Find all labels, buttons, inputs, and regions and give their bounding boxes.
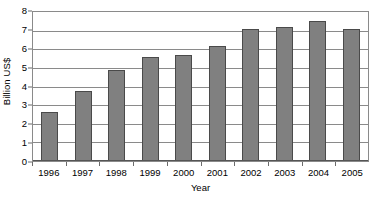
y-axis-tick-labels: 012345678 [14,11,27,162]
y-axis-tick-label: 2 [14,120,27,130]
x-axis-tick-label: 2003 [268,167,302,181]
bar-slot [335,12,369,161]
y-axis-tick-label: 6 [14,44,27,54]
bar-slot [67,12,101,161]
bar-2003[interactable] [276,27,293,161]
x-axis-tick-slot [201,162,235,166]
y-axis-tick-label: 8 [14,6,27,16]
y-axis-tick-label: 3 [14,101,27,111]
y-axis-tick-label: 0 [14,157,27,167]
bar-slot [301,12,335,161]
x-axis-tick-slot [133,162,167,166]
x-axis-title: Year [32,182,369,194]
bar-slot [100,12,134,161]
x-axis-tick-mark [66,162,67,166]
x-axis-tick-labels: 1996199719981999200020012002200320042005 [32,167,369,181]
bar-2004[interactable] [309,21,326,161]
bar-chart: Billion US$ 012345678 199619971998199920… [0,0,373,198]
x-axis-tick-label: 1997 [66,167,100,181]
bar-2001[interactable] [209,46,226,161]
bar-slot [268,12,302,161]
x-axis-tick-mark [133,162,134,166]
bar-slot [234,12,268,161]
x-axis-tick-slot [66,162,100,166]
bar-slot [167,12,201,161]
x-axis-tick-slot [99,162,133,166]
x-axis-tick-mark [302,162,303,166]
x-axis-tick-label: 2002 [234,167,268,181]
x-axis-tick-label: 1998 [99,167,133,181]
y-axis-title-text: Billion US$ [2,57,13,105]
x-axis-tick-marks [32,162,369,166]
bar-1997[interactable] [75,91,92,161]
x-axis-tick-slot [167,162,201,166]
bar-slot [33,12,67,161]
bar-1998[interactable] [108,70,125,161]
bar-2000[interactable] [175,55,192,161]
x-axis-tick-mark [201,162,202,166]
x-axis-tick-slot [32,162,66,166]
y-axis-tick-label: 5 [14,63,27,73]
y-axis-tick-label: 4 [14,82,27,92]
bar-2002[interactable] [242,29,259,161]
x-axis-tick-mark [32,162,33,166]
x-axis-tick-label: 1999 [133,167,167,181]
bar-series [33,12,368,161]
y-axis-title: Billion US$ [0,0,14,162]
x-axis-tick-mark [335,162,336,166]
x-axis-tick-label: 2001 [201,167,235,181]
x-axis-baseline [33,160,368,161]
x-axis-tick-label: 2000 [167,167,201,181]
x-axis-tick-slot [268,162,302,166]
plot-area [32,11,369,162]
x-axis-tick-label: 2004 [302,167,336,181]
x-axis-tick-mark [99,162,100,166]
x-axis-tick-slot [302,162,336,166]
x-axis-tick-label: 2005 [335,167,369,181]
bar-2005[interactable] [343,29,360,161]
x-axis-tick-label: 1996 [32,167,66,181]
bar-1999[interactable] [142,57,159,161]
x-axis-tick-mark [234,162,235,166]
bar-slot [134,12,168,161]
x-axis-tick-mark [167,162,168,166]
y-axis-tick-label: 7 [14,25,27,35]
x-axis-tick-mark [268,162,269,166]
y-axis-tick-label: 1 [14,138,27,148]
x-axis-tick-slot [234,162,268,166]
x-axis-tick-slot [335,162,369,166]
bar-slot [201,12,235,161]
bar-1996[interactable] [41,112,58,161]
